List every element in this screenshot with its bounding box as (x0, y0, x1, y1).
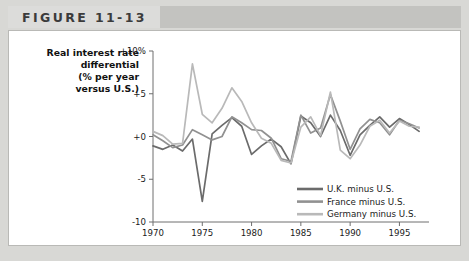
chart-panel: Real interest rate differential (% per y… (8, 30, 461, 246)
y-axis-ticks: +10%+5+0-5-10 (120, 46, 153, 227)
x-tick-label: 1985 (290, 228, 312, 238)
data-series-group (153, 64, 419, 202)
x-tick-label: 1995 (388, 228, 410, 238)
y-tick-label: -5 (137, 174, 146, 184)
figure-header-bar: FIGURE 11-13 (8, 6, 461, 28)
series-line (153, 95, 419, 162)
figure-container: FIGURE 11-13 Real interest rate differen… (0, 0, 469, 261)
series-line (153, 64, 419, 163)
x-tick-label: 1975 (191, 228, 213, 238)
legend-label: France minus U.S. (327, 197, 405, 207)
x-tick-label: 1980 (241, 228, 263, 238)
y-tick-label: -10 (132, 217, 146, 227)
x-tick-label: 1990 (339, 228, 361, 238)
chart-legend: U.K. minus U.S.France minus U.S.Germany … (297, 184, 416, 219)
y-tick-label: +0 (133, 132, 146, 142)
x-tick-label: 1970 (142, 228, 164, 238)
line-chart-plot: +10%+5+0-5-10 197019751980198519901995 U… (9, 31, 462, 247)
figure-number-label: FIGURE 11-13 (8, 10, 147, 25)
x-axis-ticks: 197019751980198519901995 (142, 222, 410, 238)
y-tick-label: +5 (133, 89, 146, 99)
legend-label: Germany minus U.S. (327, 209, 416, 219)
legend-label: U.K. minus U.S. (327, 184, 394, 194)
figure-number-tab: FIGURE 11-13 (8, 6, 160, 28)
y-tick-label: +10% (120, 46, 146, 56)
